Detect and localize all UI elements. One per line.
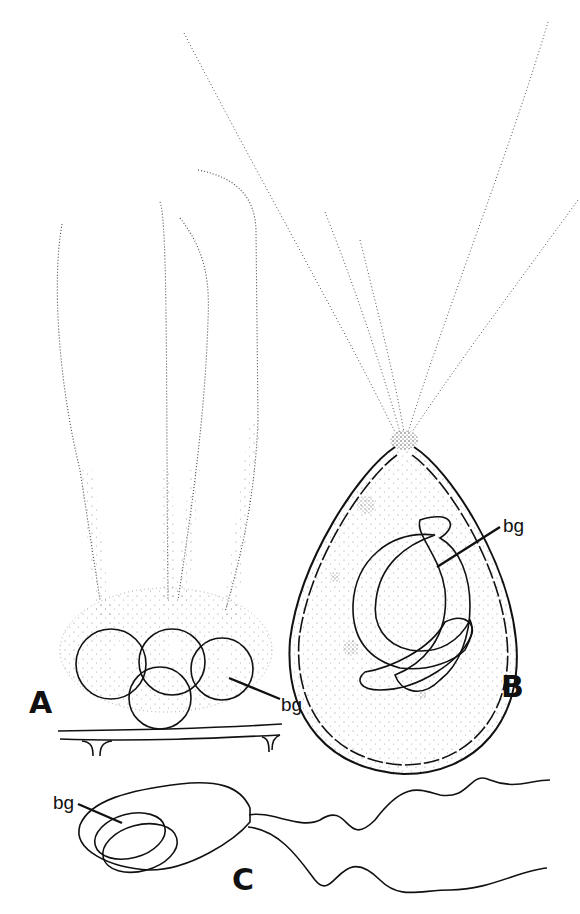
substrate-bottom bbox=[60, 735, 280, 740]
substrate-septum-2 bbox=[100, 741, 112, 756]
panel-label-c: C bbox=[232, 862, 254, 897]
cell-b-body bbox=[289, 447, 516, 774]
sheath-a4 bbox=[222, 420, 262, 620]
sheath-a3 bbox=[174, 470, 200, 605]
flagellum-lower bbox=[248, 827, 547, 893]
vacuole-2 bbox=[330, 572, 340, 582]
hair-b1 bbox=[184, 33, 395, 432]
sheath-a2 bbox=[160, 470, 176, 605]
panel-a: A bg bbox=[29, 170, 302, 756]
annotation-bg-c: bg bbox=[53, 792, 74, 813]
panel-label-a: A bbox=[29, 685, 53, 720]
substrate-septum-3 bbox=[262, 737, 269, 752]
vacuole-4 bbox=[418, 691, 426, 699]
hair-a4 bbox=[198, 170, 258, 612]
sheath-a1 bbox=[80, 470, 112, 615]
substrate-septum-4 bbox=[272, 735, 280, 750]
hair-b2 bbox=[325, 212, 400, 432]
vacuole-3 bbox=[343, 640, 359, 656]
panel-label-b: B bbox=[501, 669, 524, 704]
hair-b3 bbox=[408, 22, 548, 432]
figure-canvas: A bg bg B bbox=[0, 0, 580, 914]
annotation-line-c bbox=[78, 804, 122, 823]
annotation-bg-b: bg bbox=[503, 515, 524, 536]
hair-b5 bbox=[360, 240, 404, 432]
panel-c: bg C bbox=[53, 778, 550, 897]
inclusion-c-front bbox=[97, 816, 182, 880]
flagellum-upper bbox=[249, 778, 550, 830]
hair-b4 bbox=[412, 200, 578, 432]
substrate-septum-1 bbox=[82, 741, 93, 756]
vacuole-1 bbox=[357, 496, 375, 514]
